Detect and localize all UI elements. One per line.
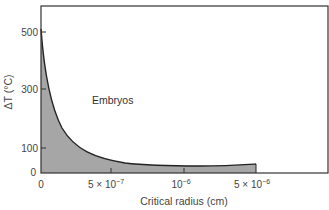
- x-tick-label-5e-6: 5 × 10−6: [234, 178, 270, 190]
- embryos-annotation: Embryos: [92, 94, 133, 106]
- y-tick-label-300: 300: [21, 84, 38, 95]
- y-tick-label-100: 100: [21, 143, 38, 154]
- x-tick-label-0: 0: [38, 179, 44, 190]
- x-tick-label-5e-7: 5 × 10−7: [88, 178, 124, 190]
- x-axis-title: Critical radius (cm): [140, 195, 228, 207]
- chart: 500 300 100 0 0 5 × 10−7 10−6 5 × 10−6 C…: [0, 0, 329, 210]
- x-tick-label-1e-6: 10−6: [171, 178, 190, 190]
- y-axis-title: ΔT (°C): [2, 75, 14, 110]
- y-tick-label-500: 500: [21, 27, 38, 38]
- plot-frame: [41, 6, 328, 173]
- y-tick-label-0: 0: [30, 167, 36, 178]
- embryo-area: [41, 29, 256, 173]
